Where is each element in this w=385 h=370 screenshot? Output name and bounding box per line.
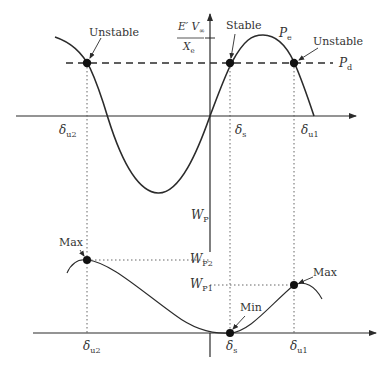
- unstable-point-u2: [83, 59, 91, 67]
- stable-label: Stable: [226, 19, 262, 32]
- bottom-plot: Max Min Max WP WP2 WP1 δu2 δs δu1: [33, 208, 376, 357]
- delta-u1-label-bottom: δu1: [290, 339, 307, 355]
- pe-label: Pe: [278, 26, 292, 42]
- max-u2-pointer: [80, 250, 84, 256]
- electrical-power-curve: [55, 35, 314, 193]
- max-u2-label: Max: [59, 236, 84, 249]
- delta-u2-label-top: δu2: [59, 123, 76, 139]
- pd-label: Pd: [338, 56, 352, 72]
- diagram-canvas: Unstable Stable Unstable Pe Pd E′ V∞ Xe …: [0, 0, 385, 370]
- max-u1-label: Max: [313, 266, 338, 279]
- delta-u2-label-bottom: δu2: [83, 339, 100, 355]
- max-u1-pointer: [299, 277, 313, 283]
- svg-text:E′ V∞: E′ V∞: [177, 20, 205, 35]
- stable-point: [226, 59, 234, 67]
- amplitude-label: E′ V∞ Xe: [177, 20, 205, 55]
- unstable-u1-pointer: [299, 48, 318, 60]
- unstable-u1-label: Unstable: [313, 35, 363, 48]
- min-point-s: [226, 329, 234, 337]
- wp2-label: WP2: [190, 252, 213, 268]
- stable-pointer: [231, 34, 235, 58]
- min-pointer: [233, 316, 245, 329]
- top-plot: Unstable Stable Unstable Pe Pd E′ V∞ Xe …: [16, 14, 363, 252]
- wp1-label: WP1: [190, 277, 213, 293]
- potential-energy-curve: [67, 260, 322, 333]
- delta-u1-label-top: δu1: [301, 123, 318, 139]
- delta-s-label-top: δs: [235, 123, 246, 139]
- max-point-u1: [290, 281, 298, 289]
- unstable-u2-pointer: [90, 38, 101, 58]
- vertical-guides: [87, 67, 294, 333]
- delta-s-label-bottom: δs: [226, 339, 237, 355]
- svg-text:Xe: Xe: [182, 40, 195, 55]
- min-label: Min: [240, 301, 262, 314]
- max-point-u2: [83, 256, 91, 264]
- unstable-point-u1: [290, 59, 298, 67]
- unstable-u2-label: Unstable: [89, 26, 139, 39]
- wp-axis-label: WP: [191, 208, 209, 224]
